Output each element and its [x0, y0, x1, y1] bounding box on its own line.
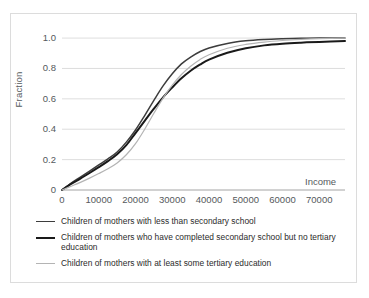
- series-line-2: [62, 38, 345, 190]
- legend-item: Children of mothers with at least some t…: [36, 258, 346, 269]
- x-axis-title: Income: [305, 176, 336, 187]
- legend-label: Children of mothers with less than secon…: [61, 216, 256, 227]
- legend-item: Children of mothers with less than secon…: [36, 216, 346, 227]
- series-curves: [62, 38, 345, 190]
- y-tick-label: 0.4: [26, 123, 56, 134]
- legend-item: Children of mothers who have completed s…: [36, 232, 346, 253]
- series-line-1: [62, 41, 345, 190]
- x-tick-label: 70000: [296, 194, 342, 205]
- legend-line-swatch: [36, 263, 55, 264]
- legend-line-swatch: [36, 237, 55, 239]
- gridlines: [62, 38, 345, 190]
- y-tick-label: 0.6: [26, 93, 56, 104]
- legend-line-swatch: [36, 221, 55, 222]
- y-axis-title: Fraction: [13, 60, 24, 120]
- y-tick-label: 0.8: [26, 62, 56, 73]
- chart-legend: Children of mothers with less than secon…: [36, 216, 346, 273]
- y-tick-label: 1.0: [26, 32, 56, 43]
- y-tick-label: 0.2: [26, 154, 56, 165]
- series-line-0: [62, 38, 345, 190]
- legend-label: Children of mothers with at least some t…: [61, 258, 271, 269]
- legend-label: Children of mothers who have completed s…: [61, 232, 346, 253]
